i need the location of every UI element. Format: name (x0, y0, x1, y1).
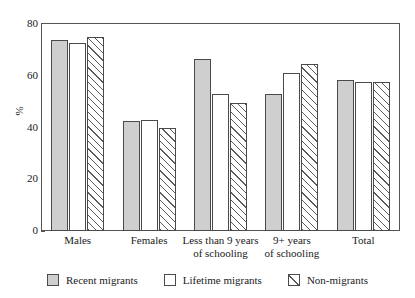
bar-lifetime (283, 73, 300, 231)
y-tick-label: 40 (8, 122, 38, 133)
bar-recent (51, 40, 68, 231)
y-tick-label: 60 (8, 70, 38, 81)
bar-lifetime (69, 43, 86, 231)
legend-label-non-migrants: Non-migrants (307, 274, 368, 286)
bar-nonmig (301, 64, 318, 231)
legend-swatch-recent-migrants-icon (47, 274, 59, 286)
bar-nonmig (87, 37, 104, 231)
bars-layer (42, 24, 399, 231)
bar-recent (123, 121, 140, 231)
bar-nonmig (230, 103, 247, 231)
bar-nonmig (159, 128, 176, 232)
y-tick-mark (41, 231, 45, 232)
legend-item-non-migrants: Non-migrants (288, 274, 368, 286)
legend-item-recent-migrants: Recent migrants (47, 274, 138, 286)
bar-lifetime (212, 94, 229, 231)
bar-nonmig (373, 82, 390, 231)
bar-lifetime (141, 120, 158, 231)
chart-legend: Recent migrants Lifetime migrants Non-mi… (0, 270, 415, 290)
y-tick-label: 80 (8, 18, 38, 29)
legend-swatch-lifetime-migrants-icon (164, 274, 176, 286)
bar-group (51, 24, 104, 231)
legend-label-recent-migrants: Recent migrants (66, 274, 138, 286)
bar-recent (337, 80, 354, 231)
bar-group (123, 24, 176, 231)
bar-group (265, 24, 318, 231)
legend-label-lifetime-migrants: Lifetime migrants (183, 274, 262, 286)
legend-swatch-non-migrants-icon (288, 274, 300, 286)
x-tick-label: Total (316, 234, 411, 247)
bar-recent (265, 94, 282, 231)
bar-lifetime (355, 82, 372, 231)
y-tick-label: 20 (8, 173, 38, 184)
bar-group (337, 24, 390, 231)
bar-group (194, 24, 247, 231)
legend-item-lifetime-migrants: Lifetime migrants (164, 274, 262, 286)
bar-chart: % 020406080 MalesFemalesLess than 9 year… (0, 0, 415, 298)
bar-recent (194, 59, 211, 231)
